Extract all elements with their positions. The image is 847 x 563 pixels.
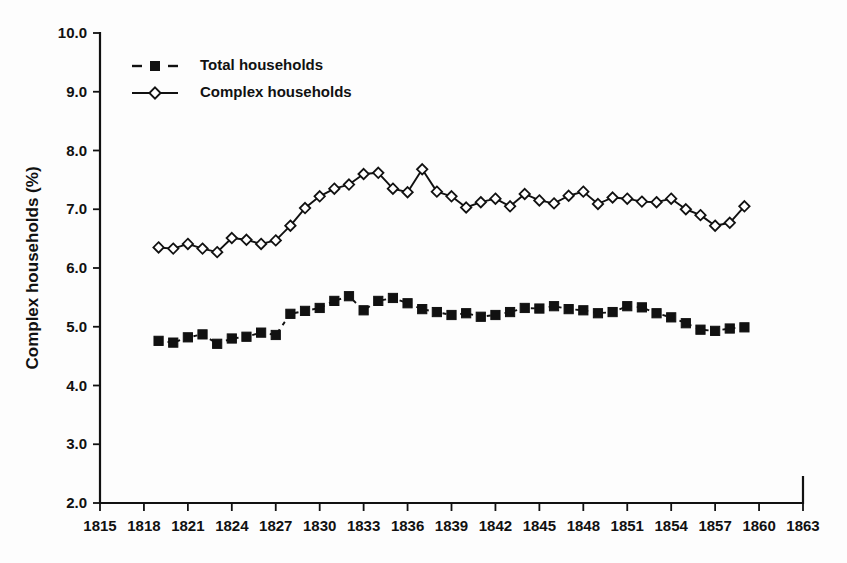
y-tick-label: 3.0 bbox=[66, 435, 87, 452]
x-tick-label: 1863 bbox=[786, 517, 819, 534]
data-point-marker bbox=[183, 239, 193, 249]
legend-item-complex-households: Complex households bbox=[132, 83, 352, 100]
data-point-marker bbox=[432, 186, 442, 196]
x-tick-label: 1824 bbox=[215, 517, 249, 534]
chart-legend: Total householdsComplex households bbox=[132, 56, 352, 100]
y-tick-label: 5.0 bbox=[66, 318, 87, 335]
y-tick-label: 10.0 bbox=[58, 24, 87, 41]
x-tick-label: 1827 bbox=[259, 517, 292, 534]
data-point-marker bbox=[637, 303, 646, 312]
x-tick-label: 1821 bbox=[171, 517, 204, 534]
data-point-marker bbox=[388, 293, 397, 302]
data-point-marker bbox=[563, 191, 573, 201]
data-point-marker bbox=[637, 196, 647, 206]
data-point-marker bbox=[286, 309, 295, 318]
data-point-marker bbox=[256, 239, 266, 249]
data-point-marker bbox=[242, 332, 251, 341]
legend-label-total-households: Total households bbox=[200, 56, 323, 73]
data-point-marker bbox=[417, 164, 427, 174]
x-axis-ticks: 1815181818211824182718301833183618391842… bbox=[83, 503, 819, 534]
legend-label-complex-households: Complex households bbox=[200, 83, 352, 100]
plot-axes-frame bbox=[100, 33, 803, 503]
data-point-marker bbox=[462, 309, 471, 318]
data-point-marker bbox=[607, 192, 617, 202]
data-point-marker bbox=[374, 296, 383, 305]
data-point-marker bbox=[505, 307, 514, 316]
x-tick-label: 1842 bbox=[479, 517, 512, 534]
y-tick-label: 9.0 bbox=[66, 83, 87, 100]
series-2 bbox=[153, 164, 749, 257]
chart-figure: Complex households (%) 2.03.04.05.06.07.… bbox=[0, 0, 847, 563]
data-point-marker bbox=[153, 242, 163, 252]
data-point-marker bbox=[696, 325, 705, 334]
data-point-marker bbox=[418, 305, 427, 314]
y-tick-label: 6.0 bbox=[66, 259, 87, 276]
series-1 bbox=[154, 292, 749, 349]
x-tick-label: 1854 bbox=[655, 517, 689, 534]
data-point-marker bbox=[476, 312, 485, 321]
data-point-marker bbox=[198, 330, 207, 339]
data-point-marker bbox=[300, 306, 309, 315]
data-point-marker bbox=[271, 330, 280, 339]
data-point-marker bbox=[330, 296, 339, 305]
y-tick-label: 2.0 bbox=[66, 494, 87, 511]
series-layer bbox=[153, 164, 749, 348]
data-point-marker bbox=[344, 292, 353, 301]
data-point-marker bbox=[725, 324, 734, 333]
data-point-marker bbox=[520, 303, 529, 312]
x-tick-label: 1860 bbox=[742, 517, 775, 534]
data-point-marker bbox=[549, 198, 559, 208]
y-tick-label: 8.0 bbox=[66, 142, 87, 159]
x-tick-label: 1845 bbox=[523, 517, 556, 534]
x-tick-label: 1857 bbox=[698, 517, 731, 534]
data-point-marker bbox=[447, 310, 456, 319]
data-point-marker bbox=[169, 338, 178, 347]
legend-marker-square bbox=[150, 61, 160, 71]
data-point-marker bbox=[168, 243, 178, 253]
x-tick-label: 1848 bbox=[567, 517, 600, 534]
data-point-marker bbox=[491, 310, 500, 319]
data-point-marker bbox=[197, 243, 207, 253]
data-point-marker bbox=[681, 319, 690, 328]
data-point-marker bbox=[183, 333, 192, 342]
x-tick-label: 1815 bbox=[83, 517, 116, 534]
data-point-marker bbox=[329, 183, 339, 193]
data-point-marker bbox=[579, 306, 588, 315]
data-point-marker bbox=[564, 305, 573, 314]
data-point-marker bbox=[359, 306, 368, 315]
data-point-marker bbox=[227, 334, 236, 343]
data-point-marker bbox=[608, 307, 617, 316]
data-point-marker bbox=[667, 313, 676, 322]
x-tick-label: 1830 bbox=[303, 517, 336, 534]
data-point-marker bbox=[740, 323, 749, 332]
data-point-marker bbox=[403, 299, 412, 308]
data-point-marker bbox=[711, 326, 720, 335]
data-point-marker bbox=[241, 235, 251, 245]
y-axis-ticks: 2.03.04.05.06.07.08.09.010.0 bbox=[58, 24, 100, 511]
y-axis-title: Complex households (%) bbox=[23, 166, 42, 369]
x-tick-label: 1839 bbox=[435, 517, 468, 534]
data-point-marker bbox=[315, 303, 324, 312]
legend-item-total-households: Total households bbox=[132, 56, 323, 73]
y-tick-label: 4.0 bbox=[66, 377, 87, 394]
x-tick-label: 1818 bbox=[127, 517, 160, 534]
data-point-marker bbox=[593, 309, 602, 318]
data-point-marker bbox=[213, 339, 222, 348]
x-tick-label: 1836 bbox=[391, 517, 424, 534]
data-point-marker bbox=[402, 187, 412, 197]
data-point-marker bbox=[534, 195, 544, 205]
y-tick-label: 7.0 bbox=[66, 200, 87, 217]
data-point-marker bbox=[432, 307, 441, 316]
line-chart: Complex households (%) 2.03.04.05.06.07.… bbox=[0, 0, 847, 563]
data-point-marker bbox=[490, 193, 500, 203]
data-point-marker bbox=[651, 197, 661, 207]
data-point-marker bbox=[257, 328, 266, 337]
data-point-marker bbox=[549, 302, 558, 311]
legend-marker-diamond bbox=[149, 87, 160, 98]
x-tick-label: 1833 bbox=[347, 517, 380, 534]
data-point-marker bbox=[652, 309, 661, 318]
data-point-marker bbox=[535, 304, 544, 313]
data-point-marker bbox=[476, 197, 486, 207]
data-point-marker bbox=[622, 193, 632, 203]
x-tick-label: 1851 bbox=[611, 517, 644, 534]
